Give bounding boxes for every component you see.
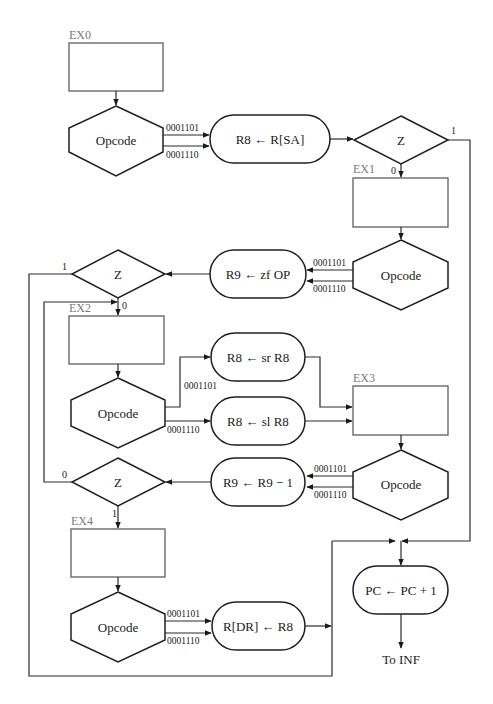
- decision-label: Opcode: [381, 268, 422, 283]
- op-r9-zf: R9 ← zf OP: [210, 250, 306, 298]
- state-label-ex1: EX1: [353, 162, 375, 176]
- operation-label: R8 ← R[SA]: [236, 132, 305, 147]
- state-box-ex1: [353, 178, 448, 227]
- operation-label: PC ← PC + 1: [365, 583, 437, 598]
- branch-label: 0: [391, 165, 396, 176]
- op-r8-sl: R8 ← sl R8: [211, 397, 305, 445]
- opcode-label: 0001110: [166, 150, 199, 160]
- state-ex0: EX0: [69, 28, 163, 91]
- opcode-label: 0001101: [167, 609, 200, 619]
- decision-label: Z: [114, 475, 122, 490]
- opcode-decision-3: Opcode: [71, 378, 165, 448]
- decision-label: Z: [114, 267, 122, 282]
- opcode-label: 0001110: [167, 425, 200, 435]
- state-ex3: EX3: [353, 371, 448, 435]
- op-pc-inc: PC ← PC + 1: [353, 566, 448, 614]
- state-box-ex3: [353, 386, 448, 435]
- opcode-label: 0001101: [313, 258, 346, 268]
- branch-label: 1: [62, 261, 67, 272]
- op-rdr-store: R[DR] ← R8: [212, 602, 305, 650]
- opcode-label: 0001101: [184, 381, 217, 391]
- state-label-ex0: EX0: [69, 28, 91, 42]
- branch-label: 0: [62, 469, 67, 480]
- opcode-decision-2: Opcode: [353, 240, 448, 310]
- state-label-ex4: EX4: [71, 514, 93, 528]
- opcode-decision-5: Opcode: [71, 592, 165, 662]
- decision-label: Opcode: [98, 620, 139, 635]
- state-label-ex3: EX3: [353, 371, 375, 385]
- op-r9-dec: R9 ← R9 − 1: [211, 458, 305, 506]
- branch-label: 1: [112, 508, 117, 519]
- flowchart-canvas: EX0 Opcode 0001101 0001110 R8 ← R[SA] Z …: [0, 0, 493, 704]
- branch-label: 0: [122, 300, 127, 311]
- decision-label: Opcode: [98, 406, 139, 421]
- op-r8-sr: R8 ← sr R8: [211, 333, 305, 381]
- operation-label: R9 ← R9 − 1: [223, 475, 293, 490]
- decision-label: Opcode: [381, 477, 422, 492]
- opcode-label: 0001101: [314, 464, 347, 474]
- opcode-label: 0001101: [166, 123, 199, 133]
- decision-label: Opcode: [96, 133, 137, 148]
- opcode-decision-1: Opcode: [69, 106, 163, 176]
- operation-label: R[DR] ← R8: [223, 619, 293, 634]
- opcode-label: 0001110: [313, 284, 346, 294]
- opcode-decision-4: Opcode: [353, 450, 448, 520]
- operation-label: R9 ← zf OP: [226, 267, 291, 282]
- opcode-label: 0001110: [167, 636, 200, 646]
- state-box-ex0: [69, 43, 163, 91]
- state-label-ex2: EX2: [69, 301, 91, 315]
- operation-label: R8 ← sl R8: [227, 414, 289, 429]
- z-decision-2: Z: [72, 250, 165, 298]
- op-r8-load: R8 ← R[SA]: [210, 115, 330, 163]
- opcode-label: 0001110: [314, 490, 347, 500]
- decision-label: Z: [397, 133, 405, 148]
- state-box-ex4: [71, 529, 165, 577]
- branch-label: 1: [451, 125, 456, 136]
- z-decision-3: Z: [72, 458, 165, 506]
- state-ex2: EX2: [69, 301, 164, 364]
- z-decision-1: Z: [354, 116, 448, 164]
- operation-label: R8 ← sr R8: [227, 350, 289, 365]
- terminal-label: To INF: [382, 652, 420, 667]
- connector: [305, 357, 352, 407]
- state-box-ex2: [69, 316, 164, 364]
